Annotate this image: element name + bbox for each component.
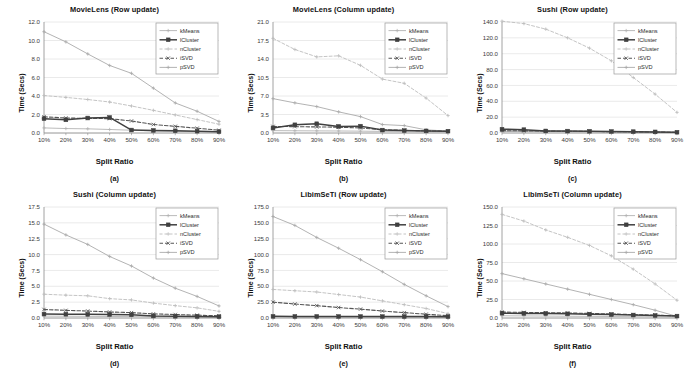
x-tick-label: 20% bbox=[518, 136, 531, 143]
series-marker-pSVD bbox=[42, 30, 45, 33]
y-tick-label: 10.0 bbox=[28, 251, 40, 258]
series-marker-nCluster bbox=[500, 213, 503, 216]
y-tick-label: 2.5 bbox=[32, 298, 41, 305]
series-marker-lCluster bbox=[424, 129, 428, 133]
series-marker-nCluster bbox=[64, 293, 67, 296]
y-tick-label: 150.0 bbox=[483, 203, 499, 210]
y-tick-label: 7.0 bbox=[261, 92, 270, 99]
series-marker-pSVD bbox=[566, 287, 569, 290]
series-marker-pSVD bbox=[108, 255, 111, 258]
series-marker-pSVD bbox=[130, 264, 133, 267]
plot-area-c: 0.020.040.060.080.0100.0120.0140.010%20%… bbox=[458, 0, 687, 185]
series-marker-nCluster bbox=[152, 109, 155, 112]
legend-marker bbox=[624, 38, 628, 42]
x-tick-label: 80% bbox=[420, 321, 433, 328]
series-marker-nCluster bbox=[315, 290, 318, 293]
y-tick-label: 25.0 bbox=[257, 298, 269, 305]
series-marker-lCluster bbox=[446, 129, 450, 133]
series-marker-lCluster bbox=[566, 129, 570, 133]
x-tick-label: 50% bbox=[125, 321, 138, 328]
series-marker-lCluster bbox=[130, 128, 134, 132]
y-tick-label: 17.5 bbox=[257, 37, 269, 44]
series-marker-nCluster bbox=[217, 123, 220, 126]
series-marker-nCluster bbox=[588, 46, 591, 49]
series-marker-lCluster bbox=[675, 130, 679, 134]
x-tick-label: 40% bbox=[333, 136, 346, 143]
y-tick-label: 100.0 bbox=[483, 240, 499, 247]
legend-label: kMeans bbox=[409, 213, 429, 219]
series-marker-pSVD bbox=[315, 105, 318, 108]
legend-label: pSVD bbox=[638, 249, 653, 255]
legend-label: iSVD bbox=[638, 240, 651, 246]
y-tick-label: 7.5 bbox=[32, 267, 41, 274]
series-marker-pSVD bbox=[86, 52, 89, 55]
series-marker-lCluster bbox=[631, 130, 635, 134]
series-marker-nCluster bbox=[130, 104, 133, 107]
legend-label: kMeans bbox=[409, 28, 429, 34]
legend-label: iSVD bbox=[409, 240, 422, 246]
legend-label: pSVD bbox=[638, 64, 653, 70]
legend-label: kMeans bbox=[638, 213, 658, 219]
x-tick-label: 20% bbox=[60, 136, 73, 143]
y-tick-label: 100.0 bbox=[483, 50, 499, 57]
series-marker-pSVD bbox=[271, 97, 274, 100]
legend-label: nCluster bbox=[409, 46, 430, 52]
series-marker-nCluster bbox=[130, 298, 133, 301]
legend-label: nCluster bbox=[638, 46, 659, 52]
series-marker-pSVD bbox=[271, 215, 274, 218]
series-marker-kMeans bbox=[293, 129, 296, 132]
legend-label: pSVD bbox=[409, 249, 424, 255]
series-marker-pSVD bbox=[446, 305, 449, 308]
series-marker-nCluster bbox=[271, 37, 274, 40]
x-tick-label: 90% bbox=[671, 321, 684, 328]
series-marker-kMeans bbox=[359, 129, 362, 132]
series-marker-pSVD bbox=[108, 64, 111, 67]
x-tick-label: 80% bbox=[420, 136, 433, 143]
series-marker-lCluster bbox=[380, 315, 384, 319]
legend-marker bbox=[395, 223, 399, 227]
legend-label: kMeans bbox=[638, 28, 658, 34]
y-tick-label: 125.0 bbox=[483, 222, 499, 229]
x-tick-label: 70% bbox=[169, 136, 182, 143]
series-marker-nCluster bbox=[403, 303, 406, 306]
series-marker-nCluster bbox=[195, 306, 198, 309]
series-marker-lCluster bbox=[337, 315, 341, 319]
series-marker-pSVD bbox=[337, 247, 340, 250]
series-marker-lCluster bbox=[173, 129, 177, 133]
series-marker-nCluster bbox=[195, 118, 198, 121]
x-tick-label: 60% bbox=[147, 321, 160, 328]
x-tick-label: 60% bbox=[605, 321, 618, 328]
y-tick-label: 10.5 bbox=[257, 74, 269, 81]
series-marker-pSVD bbox=[359, 258, 362, 261]
legend-label: nCluster bbox=[180, 231, 201, 237]
series-marker-nCluster bbox=[610, 254, 613, 257]
series-marker-pSVD bbox=[500, 272, 503, 275]
series-marker-lCluster bbox=[446, 315, 450, 319]
series-marker-pSVD bbox=[544, 282, 547, 285]
y-tick-label: 6.0 bbox=[32, 74, 41, 81]
x-tick-label: 50% bbox=[583, 136, 596, 143]
y-tick-label: 21.0 bbox=[257, 18, 269, 25]
series-marker-pSVD bbox=[359, 115, 362, 118]
x-tick-label: 10% bbox=[267, 321, 280, 328]
x-tick-label: 30% bbox=[82, 321, 95, 328]
legend-label: pSVD bbox=[409, 64, 424, 70]
x-tick-label: 90% bbox=[671, 136, 684, 143]
series-marker-pSVD bbox=[610, 298, 613, 301]
legend-label: iSVD bbox=[638, 55, 651, 61]
legend-label: lCluster bbox=[638, 222, 657, 228]
series-marker-lCluster bbox=[293, 315, 297, 319]
series-marker-lCluster bbox=[151, 314, 155, 318]
series-marker-lCluster bbox=[566, 312, 570, 316]
series-marker-kMeans bbox=[64, 127, 67, 130]
x-tick-label: 80% bbox=[191, 321, 204, 328]
legend-label: pSVD bbox=[180, 64, 195, 70]
series-marker-lCluster bbox=[64, 312, 68, 316]
legend-label: lCluster bbox=[409, 222, 428, 228]
x-tick-label: 60% bbox=[605, 136, 618, 143]
x-tick-label: 30% bbox=[82, 136, 95, 143]
series-marker-lCluster bbox=[130, 313, 134, 317]
series-marker-lCluster bbox=[42, 117, 46, 121]
series-marker-lCluster bbox=[653, 314, 657, 318]
series-line-nCluster bbox=[44, 294, 219, 311]
